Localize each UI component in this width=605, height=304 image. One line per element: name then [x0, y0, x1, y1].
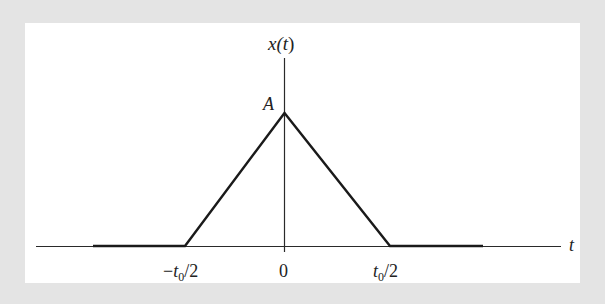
- signal-trace: [93, 113, 483, 246]
- tick-label-zero: 0: [279, 261, 288, 281]
- x-axis-label: t: [569, 235, 575, 255]
- tick-label-neg-half-t0: −t0/2: [163, 261, 198, 284]
- peak-label: A: [262, 94, 275, 114]
- triangular-pulse-plot: x(t) A t −t0/2 0 t0/2: [0, 0, 605, 304]
- y-axis-label: x(t): [267, 33, 294, 55]
- tick-label-half-t0: t0/2: [373, 261, 398, 284]
